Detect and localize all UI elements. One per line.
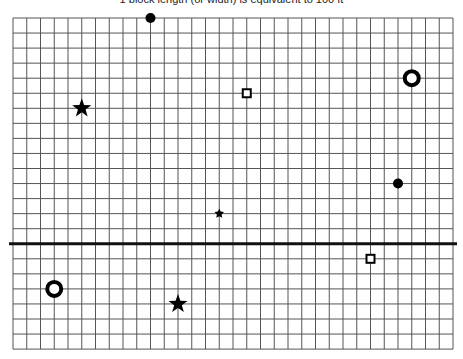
grid-diagram <box>0 0 463 359</box>
ring-marker-icon <box>405 71 419 85</box>
dot-marker-icon <box>146 13 156 23</box>
square-marker-icon <box>367 255 375 263</box>
ring-marker-icon <box>47 282 61 296</box>
square-marker-icon <box>243 89 251 97</box>
dot-marker-icon <box>393 179 403 189</box>
